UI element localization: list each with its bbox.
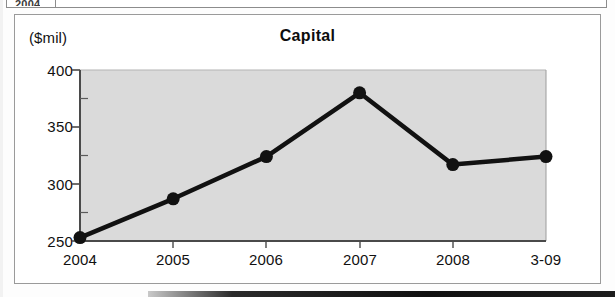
data-point-2006 <box>260 150 273 163</box>
x-tick-label-2008: 2008 <box>418 251 488 268</box>
table-column-divider <box>55 0 56 7</box>
table-row-remnant: 2004 ... <box>6 0 607 8</box>
scan-left-edge <box>0 0 3 297</box>
data-point-2004 <box>74 231 87 244</box>
table-cell-value: ... <box>73 0 83 6</box>
scanned-page: 2004 ... ($mil) Capital 400 350 300 250 <box>0 0 615 297</box>
data-point-2005 <box>167 192 180 205</box>
scan-bottom-band <box>148 291 615 297</box>
x-tick-label-2007: 2007 <box>325 251 395 268</box>
x-tick-label-2005: 2005 <box>138 251 208 268</box>
x-tick-label-2004: 2004 <box>45 251 115 268</box>
x-tick-label-2006: 2006 <box>231 251 301 268</box>
data-point-2008 <box>446 158 459 171</box>
line-chart-svg <box>15 15 602 285</box>
chart-container: ($mil) Capital 400 350 300 250 <box>14 14 601 284</box>
plot-area-wrapper: 400 350 300 250 <box>15 15 602 285</box>
scan-texture-overlay <box>80 70 546 241</box>
x-tick-label-3-09: 3-09 <box>511 251 581 268</box>
data-point-2007 <box>353 86 366 99</box>
data-point-3-09 <box>540 150 553 163</box>
table-cell-year: 2004 <box>15 0 40 6</box>
